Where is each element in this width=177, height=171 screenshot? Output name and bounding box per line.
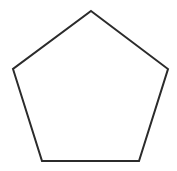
pentagon-diagram	[0, 0, 177, 171]
diagram-canvas	[0, 0, 177, 171]
pentagon-shape	[13, 11, 168, 161]
